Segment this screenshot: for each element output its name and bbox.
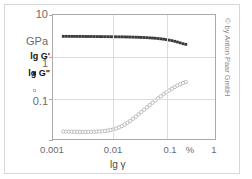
data-point	[68, 35, 71, 38]
gridline-y-0.1	[53, 99, 215, 100]
data-point	[123, 36, 126, 39]
y-tick-mark-0.01	[49, 140, 53, 141]
data-point	[137, 36, 140, 39]
data-point	[81, 35, 84, 38]
legend-entry-g-double-prime: lg G"	[8, 69, 50, 86]
data-point	[109, 35, 112, 38]
data-point	[176, 41, 179, 44]
gridline-y-1	[53, 57, 215, 58]
data-point	[115, 35, 118, 38]
y-tick-mark-10	[49, 15, 53, 16]
y-tick-mark-0.1	[49, 99, 53, 100]
data-point	[168, 39, 171, 42]
gridline-x-0.01	[113, 15, 114, 139]
data-point	[65, 35, 68, 38]
data-point	[90, 35, 93, 38]
data-series-canvas	[53, 15, 215, 139]
data-point	[70, 35, 73, 38]
data-point	[87, 35, 90, 38]
data-point	[173, 40, 176, 43]
data-point	[159, 37, 162, 40]
x-tick-label-0.001: 0.001	[32, 145, 72, 155]
x-tick-label-1: 1	[202, 145, 226, 155]
data-point	[93, 35, 96, 38]
plot-area	[52, 14, 216, 140]
data-point	[76, 35, 79, 38]
chart-figure: lg G' lg G" 10 GPa 1 0.1 0.001 0.01 0.1 …	[0, 0, 252, 179]
series-g-prime	[62, 35, 187, 46]
data-point	[179, 41, 182, 44]
data-point	[84, 35, 87, 38]
y-tick-mark-1	[49, 57, 53, 58]
series-g-double-prime	[62, 80, 188, 133]
data-point	[157, 37, 160, 40]
data-point	[98, 35, 101, 38]
data-point	[73, 35, 76, 38]
data-point	[145, 36, 148, 39]
gridline-x-0.1	[167, 15, 168, 139]
x-axis-unit-label: %	[178, 145, 202, 155]
data-point	[182, 42, 185, 45]
data-point	[154, 37, 157, 40]
data-point	[171, 39, 174, 42]
data-point	[79, 35, 82, 38]
data-point	[132, 36, 135, 39]
data-point	[129, 36, 132, 39]
data-point	[134, 36, 137, 39]
data-point	[95, 35, 98, 38]
y-tick-label-0.1: 0.1	[8, 96, 48, 107]
data-point	[120, 35, 123, 38]
data-point	[184, 80, 187, 83]
x-axis-title: lg γ	[110, 160, 126, 170]
data-point	[118, 35, 121, 38]
data-point	[104, 35, 107, 38]
y-axis-unit-label: GPa	[8, 36, 48, 47]
y-tick-label-10: 10	[8, 9, 48, 20]
data-point	[143, 36, 146, 39]
data-point	[101, 35, 104, 38]
data-point	[162, 38, 165, 41]
data-point	[62, 35, 65, 38]
legend-marker-open-circle-icon	[8, 78, 50, 84]
x-tick-label-0.01: 0.01	[93, 145, 133, 155]
y-tick-label-1: 1	[8, 58, 48, 69]
data-point	[140, 36, 143, 39]
data-point	[126, 36, 129, 39]
data-point	[151, 37, 154, 40]
data-point	[148, 36, 151, 39]
data-point	[107, 35, 110, 38]
legend-label-g-double-prime: lg G"	[8, 69, 50, 78]
copyright-notice: © by Anton Paar GmbH	[223, 18, 232, 96]
data-point	[184, 43, 187, 46]
